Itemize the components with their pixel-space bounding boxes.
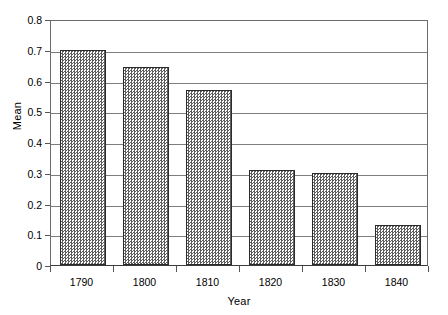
- x-axis-tick-label: 1790: [52, 276, 112, 288]
- x-axis-title: Year: [50, 295, 428, 307]
- x-axis-tick-mark: [302, 266, 303, 272]
- bar: [123, 67, 169, 265]
- bar: [312, 173, 358, 265]
- x-axis-tick-mark: [365, 266, 366, 272]
- bar: [249, 170, 295, 265]
- bar: [375, 225, 421, 265]
- bar: [186, 90, 232, 265]
- bar-chart: Mean 00.10.20.30.40.50.60.70.8 179018001…: [0, 0, 448, 315]
- x-axis-tick-label: 1800: [115, 276, 175, 288]
- x-axis-tick-mark: [428, 266, 429, 272]
- x-axis-tick-label: 1840: [367, 276, 427, 288]
- x-axis-tick-mark: [176, 266, 177, 272]
- bar: [60, 50, 106, 265]
- x-axis-tick-mark: [113, 266, 114, 272]
- x-axis-tick-mark: [239, 266, 240, 272]
- bars-layer: [51, 21, 427, 265]
- x-axis-tick-label: 1820: [241, 276, 301, 288]
- x-axis-tick-label: 1830: [304, 276, 364, 288]
- plot-area: [50, 20, 428, 266]
- x-axis-tick-label: 1810: [178, 276, 238, 288]
- x-axis-tick-mark: [50, 266, 51, 272]
